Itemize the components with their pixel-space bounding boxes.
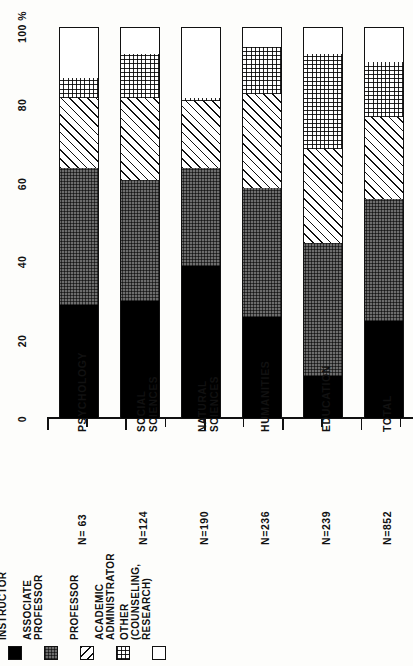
segment-professor: [364, 117, 404, 199]
segment-associate-professor: [120, 180, 160, 302]
axis-tick-80: [361, 419, 363, 430]
segment-academic-administrator: [364, 62, 404, 117]
segment-associate-professor: [303, 243, 343, 376]
category-label-0: PSYCHOLOGY: [77, 352, 89, 432]
legend-swatch-other-icon: [152, 646, 166, 660]
category-label-5: TOTAL: [382, 395, 394, 432]
category-label-1: SOCIALSCIENCES: [135, 376, 158, 432]
segment-professor: [303, 149, 343, 243]
segment-other-counseling-research-: [120, 27, 160, 54]
legend-label-associate: ASSOCIATEPROFESSOR: [22, 575, 44, 641]
segment-associate-professor: [181, 168, 221, 266]
legend-swatch-associate-icon: [44, 646, 58, 660]
segment-other-counseling-research-: [303, 27, 343, 54]
category-label-4: EDUCATION: [321, 365, 333, 432]
legend-label-assistant: ASSISTANTPROFESSOR/INSTRUCTOR: [0, 571, 8, 640]
chart-page: 020406080100 % PSYCHOLOGYN= 63SOCIALSCIE…: [0, 0, 413, 666]
category-count-1: N=124: [138, 511, 150, 545]
segment-academic-administrator: [59, 78, 99, 98]
legend-label-professor: PROFESSOR: [69, 575, 80, 641]
segment-professor: [120, 98, 160, 180]
axis-tick-label-20: 20: [16, 334, 28, 346]
segment-academic-administrator: [181, 98, 221, 102]
legend-swatch-assistant-icon: [8, 646, 22, 660]
axis-tick-30: [165, 419, 166, 427]
segment-other-counseling-research-: [242, 27, 282, 47]
category-label-2: NATURALSCIENCES: [196, 376, 219, 432]
segment-academic-administrator: [242, 47, 282, 94]
chart-legend: ASSISTANTPROFESSOR/INSTRUCTORASSOCIATEPR…: [0, 560, 240, 666]
axis-tick-20: [125, 419, 127, 430]
category-count-2: N=190: [199, 511, 211, 545]
legend-swatch-professor-icon: [80, 646, 94, 660]
legend-swatch-admin-icon: [116, 646, 130, 660]
segment-other-counseling-research-: [364, 27, 404, 62]
axis-tick-90: [400, 419, 401, 427]
axis-tick-label-60: 60: [16, 178, 28, 190]
segment-academic-administrator: [120, 54, 160, 97]
legend-label-other: OTHER(COUNSELING,RESEARCH): [119, 564, 152, 640]
segment-professor: [242, 94, 282, 188]
segment-academic-administrator: [303, 54, 343, 148]
segment-other-counseling-research-: [59, 27, 99, 78]
axis-tick-label-100: 100 %: [16, 11, 28, 43]
segment-other-counseling-research-: [181, 27, 221, 98]
axis-tick-60: [282, 419, 284, 430]
legend-label-admin: ACADEMICADMINISTRATOR: [94, 553, 116, 640]
category-count-0: N= 63: [77, 514, 89, 545]
axis-tick-50: [243, 419, 244, 427]
axis-tick-label-40: 40: [16, 256, 28, 268]
axis-tick-0: [47, 419, 49, 430]
bar-total: [364, 27, 404, 419]
axis-tick-label-80: 80: [16, 99, 28, 111]
category-count-4: N=239: [321, 511, 333, 545]
category-label-3: HUMANITIES: [260, 361, 272, 432]
bar-social-sciences: [120, 27, 160, 419]
bar-natural-sciences: [181, 27, 221, 419]
segment-associate-professor: [242, 188, 282, 317]
value-axis-line: [47, 417, 413, 419]
bar-education: [303, 27, 343, 419]
category-count-5: N=852: [382, 511, 394, 545]
category-count-3: N=236: [260, 511, 272, 545]
segment-professor: [181, 102, 221, 169]
axis-tick-label-0: 0: [16, 416, 28, 422]
segment-associate-professor: [59, 168, 99, 305]
plot-area: [47, 27, 413, 419]
segment-associate-professor: [364, 199, 404, 321]
segment-professor: [59, 98, 99, 169]
